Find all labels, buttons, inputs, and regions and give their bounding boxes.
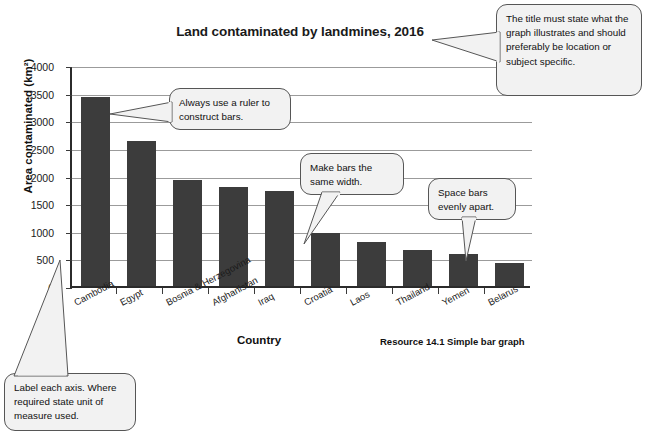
x-axis-tick bbox=[346, 288, 347, 294]
callout-spacing-note: Space bars evenly apart. bbox=[428, 178, 516, 220]
y-axis-tick-label: 1000 bbox=[31, 227, 54, 239]
x-axis-tick bbox=[116, 288, 117, 294]
y-axis-tick bbox=[66, 233, 72, 234]
y-axis-tick bbox=[66, 150, 72, 151]
callout-ruler-note: Always use a ruler to construct bars. bbox=[169, 88, 291, 130]
callout-ruler-tail bbox=[108, 100, 176, 130]
x-axis-tick bbox=[254, 288, 255, 294]
y-axis-tick-label: 3500 bbox=[31, 89, 54, 101]
callout-title-tail bbox=[430, 28, 502, 72]
bar bbox=[81, 97, 110, 286]
callout-axis-label-tail bbox=[12, 258, 74, 380]
x-axis-tick bbox=[392, 288, 393, 294]
x-axis-tick-label: Egypt bbox=[118, 287, 145, 308]
bar bbox=[495, 263, 524, 286]
y-axis-tick-label: 2500 bbox=[31, 144, 54, 156]
bar bbox=[127, 141, 156, 286]
bar bbox=[403, 250, 432, 286]
bar bbox=[173, 180, 202, 286]
chart-title: Land contaminated by landmines, 2016 bbox=[150, 24, 450, 39]
y-axis-tick-label: 1500 bbox=[31, 199, 54, 211]
callout-bar-width-note: Make bars the same width. bbox=[300, 153, 404, 195]
callout-bar-width-tail bbox=[300, 190, 346, 248]
y-axis-tick bbox=[66, 178, 72, 179]
x-axis-tick-label: Laos bbox=[348, 288, 371, 307]
y-axis-tick bbox=[66, 67, 72, 68]
x-axis-tick bbox=[162, 288, 163, 294]
callout-title-note: The title must state what the graph illu… bbox=[496, 4, 642, 96]
y-axis-tick-label: 4000 bbox=[31, 61, 54, 73]
x-axis-tick bbox=[208, 288, 209, 294]
callout-axis-label-note: Label each axis. Where required state un… bbox=[4, 373, 136, 431]
y-axis-tick bbox=[66, 95, 72, 96]
y-axis-tick-labels: 05001000150020002500300035004000 bbox=[0, 67, 62, 288]
x-axis-tick bbox=[484, 288, 485, 294]
y-axis-tick-label: 3000 bbox=[31, 116, 54, 128]
gridline bbox=[72, 95, 532, 96]
x-axis-tick bbox=[300, 288, 301, 294]
y-axis-tick bbox=[66, 205, 72, 206]
resource-caption: Resource 14.1 Simple bar graph bbox=[380, 336, 525, 347]
bar bbox=[265, 191, 294, 286]
y-axis-tick bbox=[66, 122, 72, 123]
callout-spacing-tail bbox=[440, 215, 482, 265]
x-axis-tick bbox=[438, 288, 439, 294]
x-axis-tick-label: Iraq bbox=[256, 290, 276, 307]
bar-graph-worksheet: Land contaminated by landmines, 2016 Are… bbox=[0, 0, 646, 443]
bar bbox=[357, 242, 386, 286]
y-axis-tick-label: 2000 bbox=[31, 172, 54, 184]
x-axis-title: Country bbox=[237, 334, 281, 346]
